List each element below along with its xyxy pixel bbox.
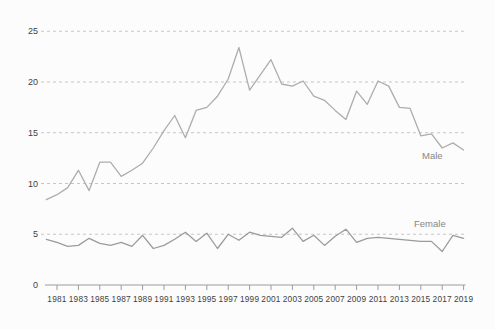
female-line [46,228,463,251]
y-tick-label-15: 15 [28,128,38,138]
x-tick-label-2019: 2019 [454,294,473,304]
x-tick-label-1999: 1999 [240,294,259,304]
x-tick-label-1985: 1985 [90,294,109,304]
x-axis [45,285,466,290]
male-line [46,48,463,200]
x-axis-tick-labels: 1981198319851987198919911993199519971999… [47,294,473,304]
x-tick-label-2009: 2009 [347,294,366,304]
y-tick-label-25: 25 [28,26,38,36]
line-chart-figure: 0510152025 19811983198519871989199119931… [0,0,495,329]
y-tick-label-0: 0 [33,280,38,290]
x-tick-label-1997: 1997 [219,294,238,304]
x-tick-label-2001: 2001 [261,294,280,304]
y-tick-label-10: 10 [28,179,38,189]
y-axis-tick-labels: 0510152025 [28,26,38,290]
y-tick-label-20: 20 [28,77,38,87]
x-tick-label-1987: 1987 [112,294,131,304]
x-tick-label-2011: 2011 [369,294,388,304]
x-tick-label-2013: 2013 [390,294,409,304]
x-tick-label-1995: 1995 [197,294,216,304]
x-tick-label-1989: 1989 [133,294,152,304]
male-series-label: Male [422,150,443,161]
x-tick-label-2007: 2007 [326,294,345,304]
x-tick-label-1991: 1991 [154,294,173,304]
x-tick-label-2003: 2003 [283,294,302,304]
x-tick-label-1981: 1981 [47,294,66,304]
gridlines [41,31,466,234]
y-tick-label-5: 5 [33,229,38,239]
x-tick-label-1993: 1993 [176,294,195,304]
x-tick-label-2015: 2015 [411,294,430,304]
x-tick-label-2005: 2005 [304,294,323,304]
x-tick-label-1983: 1983 [69,294,88,304]
series-lines [46,48,463,252]
female-series-label: Female [414,218,446,229]
chart-canvas: 0510152025 19811983198519871989199119931… [0,0,495,329]
x-tick-label-2017: 2017 [433,294,452,304]
